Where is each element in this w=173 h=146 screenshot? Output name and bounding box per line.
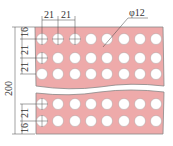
vertical-top-label-1: 16	[19, 27, 30, 37]
vertical-bottom-label-1: 21	[19, 108, 30, 118]
perforated-plate-diagram: 21 21 φ12 200 16 21 21 21 16	[0, 0, 173, 146]
vertical-bottom-label-2: 16	[19, 123, 30, 133]
horizontal-pitch-label-2: 21	[61, 9, 71, 20]
plate-bottom-section	[36, 90, 164, 134]
hole-diameter-label: φ12	[129, 7, 145, 18]
vertical-top-label-3: 21	[19, 62, 30, 72]
total-height-label: 200	[3, 81, 14, 96]
vertical-top-label-2: 21	[19, 45, 30, 55]
horizontal-pitch-label-1: 21	[44, 9, 54, 20]
